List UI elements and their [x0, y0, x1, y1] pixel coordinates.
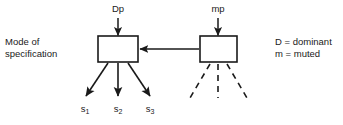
diagram-canvas: Mode ofspecification Dp mp s1 s2 s3 D = … [0, 0, 343, 125]
muted-box [200, 36, 237, 62]
legend: D = dominantm = muted [275, 36, 332, 59]
mode-label-line1: Mode of [5, 36, 39, 47]
mode-label-line2: specification [5, 48, 57, 59]
dominant-box [98, 36, 138, 62]
dashed-output-right [227, 64, 247, 98]
muted-input-label: mp [204, 3, 232, 14]
dashed-output-left [190, 64, 210, 98]
dominant-input-label: Dp [104, 3, 132, 14]
output-s1-subscript: 1 [85, 108, 89, 115]
arrow-output-s1 [86, 63, 108, 96]
mode-of-specification-label: Mode ofspecification [5, 36, 57, 59]
output-label-s3: s3 [139, 103, 161, 117]
legend-line-dominant: D = dominant [275, 36, 332, 47]
output-s3-subscript: 3 [150, 108, 154, 115]
legend-line-muted: m = muted [275, 48, 320, 59]
output-label-s2: s2 [107, 103, 129, 117]
diagram-graphics [0, 0, 343, 125]
arrow-output-s3 [128, 63, 150, 96]
output-label-s1: s1 [74, 103, 96, 117]
output-s2-subscript: 2 [118, 108, 122, 115]
